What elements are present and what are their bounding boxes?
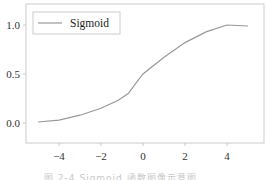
sigmoid-chart: 0.00.51.0 −4−2024 Sigmoid — [0, 0, 267, 165]
x-tick-label: 4 — [224, 150, 230, 162]
y-tick-label: 1.0 — [6, 19, 20, 31]
x-tick-label: −4 — [53, 150, 65, 162]
x-tick-label: 0 — [140, 150, 146, 162]
x-tick-label: 2 — [182, 150, 188, 162]
y-axis: 0.00.51.0 — [6, 19, 26, 129]
y-tick-label: 0.5 — [6, 68, 20, 80]
y-tick-label: 0.0 — [6, 117, 20, 129]
x-tick-label: −2 — [95, 150, 107, 162]
legend-label: Sigmoid — [70, 17, 109, 30]
x-axis: −4−2024 — [53, 143, 230, 162]
figure-caption: 图 2-4 Sigmoid 函数图像示意图 — [44, 171, 197, 180]
legend: Sigmoid — [33, 12, 120, 34]
